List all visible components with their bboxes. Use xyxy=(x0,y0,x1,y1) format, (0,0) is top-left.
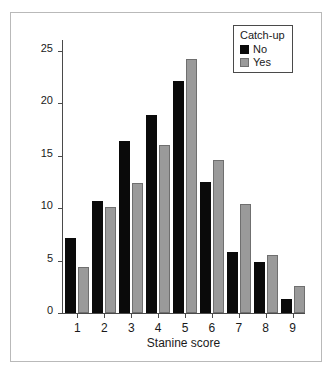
x-axis-line xyxy=(62,313,305,314)
legend-label-yes: Yes xyxy=(253,56,271,68)
legend-title: Catch-up xyxy=(240,29,285,41)
y-tick-label: 5 xyxy=(47,253,53,264)
x-tick-mark xyxy=(185,313,186,318)
figure: 0510152025 Percent 123456789 Stanine sco… xyxy=(0,0,334,380)
legend-item-yes: Yes xyxy=(240,56,285,68)
bar-yes xyxy=(78,267,89,313)
x-tick-label: 4 xyxy=(146,321,170,335)
x-tick-label: 5 xyxy=(173,321,197,335)
y-tick-label: 25 xyxy=(41,43,53,54)
bar-yes xyxy=(105,207,116,313)
legend-swatch-no-icon xyxy=(240,45,249,54)
bar-no xyxy=(200,182,211,313)
x-tick-label: 1 xyxy=(65,321,89,335)
x-tick-mark xyxy=(293,313,294,318)
legend: Catch-up No Yes xyxy=(233,25,293,73)
x-tick-label: 2 xyxy=(92,321,116,335)
bar-yes xyxy=(186,59,197,313)
x-tick-mark xyxy=(266,313,267,318)
x-tick-mark xyxy=(77,313,78,318)
bar-no xyxy=(173,81,184,313)
legend-swatch-yes-icon xyxy=(240,58,249,67)
legend-item-no: No xyxy=(240,43,285,55)
bar-group xyxy=(63,40,90,313)
bar-group xyxy=(117,40,144,313)
y-tick-label: 15 xyxy=(41,148,53,159)
y-tick-label: 20 xyxy=(41,95,53,106)
bar-yes xyxy=(213,160,224,313)
bar-yes xyxy=(294,286,305,313)
bar-group xyxy=(197,40,224,313)
bar-groups xyxy=(63,40,305,313)
bar-no xyxy=(146,115,157,313)
x-tick-mark xyxy=(131,313,132,318)
x-tick-label: 8 xyxy=(254,321,278,335)
x-tick-label: 7 xyxy=(227,321,251,335)
bar-yes xyxy=(132,183,143,313)
x-tick-label: 3 xyxy=(119,321,143,335)
y-tick-mark xyxy=(58,313,63,314)
bar-no xyxy=(65,238,76,313)
x-axis-label: Stanine score xyxy=(62,336,305,350)
x-tick-mark xyxy=(239,313,240,318)
bar-no xyxy=(281,299,292,313)
bar-group xyxy=(224,40,251,313)
bar-no xyxy=(119,141,130,313)
bar-no xyxy=(92,201,103,313)
x-tick-label: 6 xyxy=(200,321,224,335)
bar-group xyxy=(278,40,305,313)
bar-group xyxy=(251,40,278,313)
y-tick-label: 0 xyxy=(47,305,53,316)
x-tick-label: 9 xyxy=(281,321,305,335)
bar-no xyxy=(254,262,265,313)
bar-no xyxy=(227,252,238,313)
legend-label-no: No xyxy=(253,43,267,55)
y-tick-label: 10 xyxy=(41,200,53,211)
bar-group xyxy=(144,40,171,313)
x-tick-mark xyxy=(158,313,159,318)
bar-yes xyxy=(267,255,278,313)
x-tick-mark xyxy=(212,313,213,318)
bar-yes xyxy=(240,204,251,313)
bar-group xyxy=(90,40,117,313)
bar-yes xyxy=(159,145,170,313)
bar-group xyxy=(171,40,198,313)
x-tick-mark xyxy=(104,313,105,318)
